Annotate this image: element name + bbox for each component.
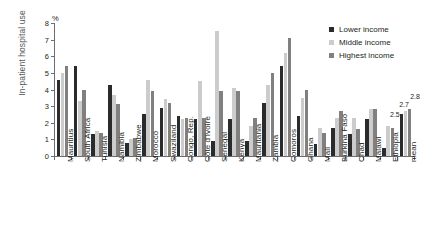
bar[interactable] <box>160 108 164 156</box>
x-tick <box>54 156 55 160</box>
y-tick-label: 3 <box>45 102 49 111</box>
x-tick-label: Côte d'Ivoire <box>203 116 212 162</box>
bar[interactable] <box>369 109 373 156</box>
x-tick-label: Kenya <box>237 139 246 162</box>
y-tick-label: 6 <box>45 52 49 61</box>
x-tick-label: Senegal <box>220 132 229 162</box>
x-tick-label: Burkina Faso <box>340 114 349 162</box>
bar[interactable] <box>57 80 61 156</box>
data-label: 2.8 <box>410 93 420 100</box>
legend-label-lower-income: Lower income <box>339 26 389 34</box>
x-tick-label: Mali <box>323 147 332 162</box>
bar[interactable] <box>400 114 404 156</box>
y-tick-label: 2 <box>45 118 49 127</box>
legend-swatch-lower-income <box>329 27 334 32</box>
x-tick-label: Mauritius <box>66 129 75 162</box>
bar[interactable] <box>215 31 219 156</box>
bar[interactable] <box>280 66 284 156</box>
y-tick-label: 8 <box>45 19 49 28</box>
y-tick-label: 4 <box>45 85 49 94</box>
legend-label-middle-income: Middle income <box>339 39 391 47</box>
x-tick-label: Ethiopia <box>391 132 400 162</box>
x-tick-label: Comoros <box>289 129 298 162</box>
x-tick-label: South Africa <box>83 118 92 162</box>
y-tick-label: 1 <box>45 135 49 144</box>
bar[interactable] <box>146 80 150 156</box>
chart-legend: Lower income Middle income Highest incom… <box>329 23 394 62</box>
y-tick-label: 0 <box>45 152 49 161</box>
x-tick-label: Swaziland <box>169 125 178 162</box>
legend-swatch-highest-income <box>329 53 334 58</box>
bar[interactable] <box>78 101 82 156</box>
bar[interactable] <box>386 126 390 156</box>
bar[interactable] <box>198 81 202 156</box>
x-tick-label: Zimbabwe <box>134 124 143 162</box>
bar[interactable] <box>404 111 408 156</box>
data-label: 2.7 <box>399 101 409 108</box>
bar[interactable] <box>181 119 185 156</box>
y-axis-title: In-patient hospital use <box>17 0 27 113</box>
bar[interactable] <box>249 126 253 156</box>
bar[interactable] <box>266 85 270 156</box>
bar[interactable] <box>164 99 168 156</box>
bar[interactable] <box>318 128 322 156</box>
legend-label-highest-income: Highest income <box>339 52 394 60</box>
bar[interactable] <box>352 118 356 156</box>
x-tick-label: Tunisia <box>100 136 109 162</box>
x-tick-label: Morocco <box>151 131 160 162</box>
legend-swatch-middle-income <box>329 40 334 45</box>
bar[interactable] <box>232 88 236 156</box>
x-tick-label: Ghana <box>306 137 315 162</box>
legend-item-middle-income[interactable]: Middle income <box>329 36 394 49</box>
x-tick-label: Chad <box>357 142 366 162</box>
bar[interactable] <box>129 139 133 156</box>
legend-item-highest-income[interactable]: Highest income <box>329 49 394 62</box>
x-tick-label: Zambia <box>271 135 280 162</box>
figure-caption <box>10 226 422 237</box>
bar[interactable] <box>95 131 99 156</box>
x-tick-label: Congo, Rep. <box>186 116 195 162</box>
bar[interactable] <box>301 98 305 156</box>
x-tick-label: Malawi <box>374 137 383 163</box>
y-axis-unit-label: % <box>52 14 59 23</box>
x-tick-label: Mauritania <box>254 124 263 162</box>
data-label: 2.5 <box>390 111 400 118</box>
x-tick-label: mean <box>409 142 418 162</box>
bar[interactable] <box>112 95 116 157</box>
y-tick-label: 5 <box>45 68 49 77</box>
bar[interactable] <box>335 118 339 156</box>
x-tick-label: Namibia <box>117 132 126 162</box>
bar[interactable] <box>61 73 65 156</box>
y-tick-label: 7 <box>45 35 49 44</box>
legend-item-lower-income[interactable]: Lower income <box>329 23 394 36</box>
chart-container: In-patient hospital use % 012345678 2.52… <box>0 0 430 238</box>
bar[interactable] <box>284 53 288 156</box>
